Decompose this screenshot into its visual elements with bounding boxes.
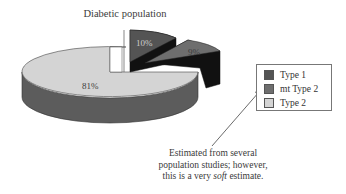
swatch-type-2 [264,98,274,108]
legend-label: mt Type 2 [280,84,318,94]
label-81-percent: 81% [82,81,99,91]
annotation-emphasis: soft [213,171,227,181]
swatch-type-1 [264,70,274,80]
legend-item-mt-type-2: mt Type 2 [264,83,318,94]
legend-item-type-2: Type 2 [264,97,306,108]
annotation-prefix: this is a very [163,171,214,181]
label-9-percent: 9% [188,47,201,57]
annotation-text: Estimated from several population studie… [148,148,278,183]
annotation-arrow [212,89,262,146]
legend-label: Type 2 [280,98,306,108]
legend-label: Type 1 [280,70,306,80]
annotation-line-3: this is a very soft estimate. [148,171,278,183]
legend: Type 1 mt Type 2 Type 2 [256,64,332,111]
chart-title: Diabetic population [70,8,180,19]
annotation-line-2: population studies; however, [148,160,278,172]
annotation-suffix: estimate. [227,171,263,181]
annotation-line-1: Estimated from several [148,148,278,160]
legend-item-type-1: Type 1 [264,69,306,80]
swatch-mt-type-2 [264,84,274,94]
label-10-percent: 10% [136,38,153,48]
